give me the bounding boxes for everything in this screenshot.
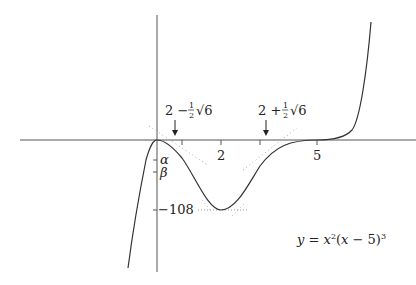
svg-text:y = x2(x − 5)3: y = x2(x − 5)3 [296,232,386,247]
inflection-label-1: 2 − 1 2 √6 [165,101,213,120]
x-label-2: 2 [217,148,225,163]
svg-text:√6: √6 [196,103,213,118]
x-label-5: 5 [313,148,321,163]
svg-text:√6: √6 [290,103,307,118]
svg-text:2 +: 2 + [258,103,281,118]
svg-text:2: 2 [283,111,288,120]
tangent-inflect-1 [149,126,209,166]
tangent-inflect-min-left [202,200,214,215]
graph-canvas: 2 − 1 2 √6 2 + 1 2 √6 2 5 α β −108 y = x… [0,0,416,285]
inflection-label-2: 2 + 1 2 √6 [258,101,307,120]
arrow-inflect-2 [263,120,269,136]
tangent-inflect-min-right [232,204,244,216]
y-label-beta: β [159,165,168,180]
svg-text:2 −: 2 − [165,103,188,118]
svg-text:1: 1 [283,101,288,110]
svg-text:2: 2 [189,111,194,120]
svg-text:1: 1 [189,101,194,110]
equation-label: y = x2(x − 5)3 [296,232,386,247]
y-label-minus-108: −108 [158,202,194,217]
arrow-inflect-1 [172,120,178,136]
tangent-inflect-2 [243,128,297,170]
